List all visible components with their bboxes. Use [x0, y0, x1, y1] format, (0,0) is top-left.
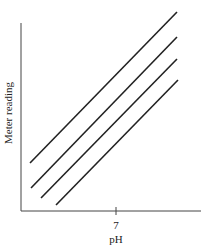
series-line-3: [41, 59, 177, 198]
chart: 7 pH Meter reading: [0, 0, 207, 250]
x-axis-label: pH: [109, 233, 123, 245]
x-tick-label: 7: [113, 219, 119, 231]
series-lines: [30, 12, 178, 205]
series-line-1: [30, 12, 177, 163]
y-axis-label: Meter reading: [2, 82, 14, 144]
series-line-2: [31, 37, 177, 188]
